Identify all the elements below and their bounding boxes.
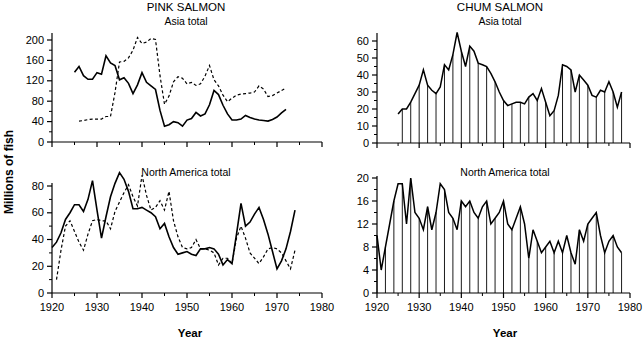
xtick-label-1980: 1980	[310, 301, 334, 313]
ytick-chum-asia-20: 20	[357, 103, 369, 115]
x-axis-chum-na: 1920193019401950196019701980 Year	[365, 293, 642, 339]
xtick-label-1950: 1950	[175, 301, 199, 313]
x-axis-label-left: Year	[178, 327, 203, 339]
y-axis-label: Millions of fish	[2, 130, 16, 214]
plot-chum-asia	[398, 33, 621, 144]
xtick-label-1970: 1970	[576, 301, 600, 313]
ytick-pink-na-0: 0	[38, 287, 44, 299]
x-axis-label-right: Year	[493, 327, 518, 339]
xtick-label-1940: 1940	[130, 301, 154, 313]
ytick-chum-asia-60: 60	[357, 35, 369, 47]
panel-pink-asia: PINK SALMON Asia total 0 40 80 120 160	[26, 1, 322, 148]
xtick-label-1930: 1930	[407, 301, 431, 313]
x-axis-pink-asia	[52, 142, 322, 147]
panel-subtitle-pink-asia: Asia total	[164, 15, 207, 27]
series-pink-na-escapement	[57, 175, 296, 279]
panel-subtitle-pink-na: North America total	[141, 166, 230, 178]
figure-svg: Millions of fish PINK SALMON Asia total …	[0, 0, 644, 345]
xtick-label-1930: 1930	[85, 301, 109, 313]
xtick-group-pink-na: 1920193019401950196019701980	[40, 293, 334, 313]
ytick-chum-na-16: 16	[357, 195, 369, 207]
ytick-chum-na-4: 4	[363, 264, 369, 276]
x-axis-pink-na: 1920193019401950196019701980 Year	[40, 293, 334, 339]
series-chum-na-catch	[377, 178, 622, 270]
panel-chum-na: North America total 0 4 8 12 16 20	[357, 166, 642, 339]
ytick-chum-asia-10: 10	[357, 120, 369, 132]
plot-pink-asia	[75, 37, 287, 126]
xtick-label-1920: 1920	[365, 301, 389, 313]
y-axis-chum-asia: 0 10 20 30 40 50 60	[357, 33, 377, 149]
ytick-pink-asia-0: 0	[38, 136, 44, 148]
ytick-pink-na-80: 80	[32, 180, 44, 192]
droplines-chum-asia	[402, 46, 621, 143]
ytick-chum-na-12: 12	[357, 218, 369, 230]
x-axis-chum-asia	[377, 143, 630, 148]
plot-chum-na	[377, 178, 622, 293]
xtick-label-1950: 1950	[491, 301, 515, 313]
panel-subtitle-chum-asia: Asia total	[478, 15, 521, 27]
xtick-label-1940: 1940	[449, 301, 473, 313]
ytick-chum-asia-30: 30	[357, 86, 369, 98]
xtick-label-1970: 1970	[265, 301, 289, 313]
ytick-pink-asia-160: 160	[26, 54, 44, 66]
series-pink-asia-escapement	[79, 37, 286, 121]
series-pink-asia-catch	[75, 56, 287, 126]
ytick-pink-asia-120: 120	[26, 74, 44, 86]
ytick-chum-na-8: 8	[363, 241, 369, 253]
ytick-pink-asia-40: 40	[32, 115, 44, 127]
xtick-group-chum-na: 1920193019401950196019701980	[365, 293, 642, 313]
xtick-label-1960: 1960	[533, 301, 557, 313]
y-axis-pink-na: 0 20 40 60 80	[32, 180, 52, 299]
xtick-label-1980: 1980	[618, 301, 642, 313]
xtick-label-1920: 1920	[40, 301, 64, 313]
panel-pink-na: North America total 0 20 40 60 80	[32, 166, 334, 339]
xtick-label-1960: 1960	[220, 301, 244, 313]
ytick-pink-na-40: 40	[32, 233, 44, 245]
ytick-chum-na-0: 0	[363, 287, 369, 299]
ytick-chum-asia-50: 50	[357, 52, 369, 64]
plot-pink-na	[52, 173, 295, 280]
panel-subtitle-chum-na: North America total	[460, 166, 549, 178]
panel-chum-asia: CHUM SALMON Asia total 0 10 20	[357, 1, 630, 149]
ytick-pink-asia-200: 200	[26, 34, 44, 46]
ytick-pink-na-20: 20	[32, 260, 44, 272]
salmon-abundance-figure: Millions of fish PINK SALMON Asia total …	[0, 0, 644, 345]
y-axis-pink-asia: 0 40 80 120 160 200	[26, 33, 52, 148]
panel-title-chum: CHUM SALMON	[457, 1, 543, 13]
y-axis-chum-na: 0 4 8 12 16 20	[357, 172, 377, 299]
panel-title-pink: PINK SALMON	[147, 1, 226, 13]
ytick-pink-asia-80: 80	[32, 95, 44, 107]
ytick-chum-na-20: 20	[357, 172, 369, 184]
ytick-chum-asia-40: 40	[357, 69, 369, 81]
ytick-pink-na-60: 60	[32, 206, 44, 218]
ytick-chum-asia-0: 0	[363, 137, 369, 149]
